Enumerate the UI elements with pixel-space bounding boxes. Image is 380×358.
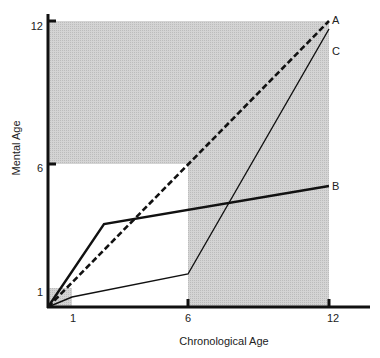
x-tick-label-6: 6 xyxy=(185,312,191,324)
shaded-region-top xyxy=(48,21,329,164)
y-axis-title: Mental Age xyxy=(10,120,22,175)
shaded-region-right xyxy=(188,164,329,307)
series-b-label: B xyxy=(332,180,339,192)
x-tick-label-12: 12 xyxy=(327,312,339,324)
y-tick-label-1: 1 xyxy=(37,286,43,298)
series-a-label: A xyxy=(332,14,340,26)
chart: 12 6 1 1 6 12 Chronological Age Mental A… xyxy=(0,0,380,358)
x-tick-label-1: 1 xyxy=(70,312,76,324)
series-c-label: C xyxy=(332,45,340,57)
y-tick-label-6: 6 xyxy=(37,162,43,174)
y-tick-label-12: 12 xyxy=(31,20,43,32)
x-axis-title: Chronological Age xyxy=(179,335,268,347)
